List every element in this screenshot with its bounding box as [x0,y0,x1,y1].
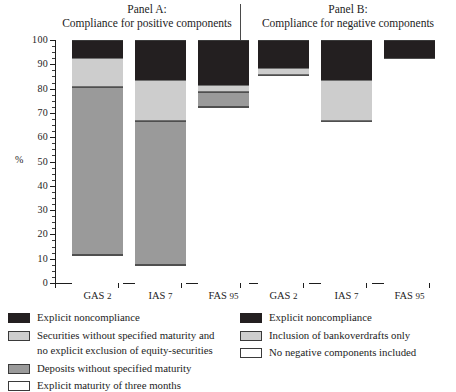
legend-label: Securities without specified maturity an… [37,328,236,359]
legend-positive-components: Explicit noncomplianceSecurities without… [8,310,236,392]
y-tick-minor [52,271,55,272]
segment-explicit-maturity [135,265,186,284]
y-tick-major [50,113,55,114]
segment-no-negative-components [384,58,435,284]
y-tick-minor [52,101,55,102]
x-tick [55,283,56,288]
y-tick-minor [52,119,55,120]
legend-item: Explicit noncompliance [240,310,455,326]
y-tick-minor [52,95,55,96]
panel-a-title: Panel A: Compliance for positive compone… [52,2,242,30]
y-tick-minor [52,76,55,77]
legend-label: Explicit maturity of three months [37,378,236,392]
panel-a-title-line1: Panel A: [52,2,242,16]
bar-panel_b-gas-2 [258,40,309,283]
plot-area: % 0102030405060708090100 GAS 2IAS 7FAS 9… [55,40,435,283]
x-category-label: FAS 95 [374,290,445,302]
y-tick-minor [52,174,55,175]
segment-explicit-noncompliance [321,41,372,80]
y-tick-minor [52,58,55,59]
y-tick-label: 30 [37,205,48,215]
segment-no-negative-components [321,121,372,284]
y-tick-label: 90 [37,59,48,69]
segment-bank-overdrafts-only [258,68,309,75]
y-tick-minor [52,46,55,47]
x-tick [240,283,241,288]
segment-explicit-noncompliance [135,41,186,80]
y-tick-minor [52,143,55,144]
y-tick-minor [52,240,55,241]
y-tick-minor [52,228,55,229]
legend-item: Explicit noncompliance [8,310,236,326]
segment-explicit-maturity [72,255,123,284]
y-tick-minor [52,70,55,71]
segment-securities-no-maturity [198,85,249,92]
legend-swatch-ltgray [8,331,30,341]
legend-item: Explicit maturity of three months [8,378,236,392]
legend-label: Deposits without specified maturity [37,361,236,377]
y-tick-minor [52,52,55,53]
x-category-label: GAS 2 [248,290,319,302]
x-tick [303,283,304,288]
segment-deposits-no-maturity [198,92,249,107]
y-tick-major [50,137,55,138]
legend-swatch-ltgray [240,331,262,341]
legend-swatch-white [240,348,262,358]
y-tick-major [50,64,55,65]
y-tick-minor [52,149,55,150]
y-tick-major [50,162,55,163]
x-category-label: GAS 2 [62,290,133,302]
y-tick-minor [52,131,55,132]
bar-panel_a-fas-95 [198,40,249,283]
x-tick [118,283,119,288]
segment-deposits-no-maturity [135,121,186,264]
legend-label: Explicit noncompliance [37,310,236,326]
y-tick-label: 100 [32,35,48,45]
legend-swatch-dkgray [8,364,30,374]
panel-a-title-line2: Compliance for positive components [52,16,242,30]
y-tick-minor [52,168,55,169]
x-category-label: IAS 7 [125,290,196,302]
segment-explicit-noncompliance [258,41,309,68]
y-tick-minor [52,253,55,254]
panel-b-title-line1: Panel B: [248,2,448,16]
segment-deposits-no-maturity [72,87,123,255]
legend-item: No negative components included [240,345,455,361]
y-tick-minor [52,216,55,217]
legend-negative-components: Explicit noncomplianceInclusion of banko… [240,310,455,363]
segment-explicit-maturity [198,107,249,284]
stacked-bar-chart-figure: Panel A: Compliance for positive compone… [0,0,456,392]
segment-securities-no-maturity [135,80,186,121]
y-tick-label: 10 [37,254,48,264]
x-tick [181,283,182,288]
legend-label: Inclusion of bankoverdrafts only [269,328,455,344]
segment-no-negative-components [258,75,309,284]
legend-label: No negative components included [269,345,455,361]
y-tick-label: 60 [37,132,48,142]
bar-panel_a-ias-7 [135,40,186,283]
y-tick-label: 70 [37,108,48,118]
legend-label: Explicit noncompliance [269,310,455,326]
y-tick-label: 20 [37,229,48,239]
y-tick-label: 40 [37,181,48,191]
segment-securities-no-maturity [72,58,123,87]
y-tick-minor [52,277,55,278]
y-tick-minor [52,83,55,84]
bar-panel_b-ias-7 [321,40,372,283]
panel-b-title: Panel B: Compliance for negative compone… [248,2,448,30]
y-axis-label: % [15,154,23,165]
y-tick-label: 80 [37,84,48,94]
legend-item: Deposits without specified maturity [8,361,236,377]
y-tick-minor [52,107,55,108]
y-tick-major [50,234,55,235]
segment-bank-overdrafts-only [321,80,372,121]
y-tick-minor [52,198,55,199]
y-tick-minor [52,125,55,126]
y-tick-major [50,259,55,260]
x-tick [429,283,430,288]
segment-explicit-noncompliance [72,41,123,58]
y-tick-minor [52,247,55,248]
segment-explicit-noncompliance [198,41,249,85]
y-tick-label: 0 [43,278,48,288]
x-tick [366,283,367,288]
